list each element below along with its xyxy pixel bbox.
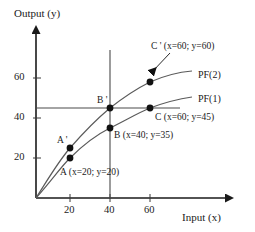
x-tick-label-60: 60	[144, 205, 155, 216]
y-tick-label-20: 20	[14, 152, 25, 163]
data-point-c	[147, 105, 154, 112]
annotation-arrow-c-prime	[152, 53, 170, 72]
data-point-b	[107, 125, 114, 132]
y-axis-title: Output (y)	[14, 8, 60, 19]
y-tick-label-60: 60	[14, 72, 25, 83]
data-point-b-prime	[107, 105, 114, 112]
chart-canvas	[0, 0, 255, 232]
curve-label-pf2: PF(2)	[198, 70, 221, 80]
data-point-a	[67, 155, 74, 162]
y-tick-label-40: 40	[14, 112, 25, 123]
curve-label-pf1: PF(1)	[198, 94, 221, 104]
x-axis-title: Input (x)	[182, 212, 221, 223]
x-tick-label-40: 40	[104, 205, 115, 216]
point-label-a: A (x=20; y=20)	[60, 168, 119, 178]
point-label-b: B (x=40; y=35)	[114, 131, 173, 141]
point-label-c: C (x=60; y=45)	[155, 113, 214, 123]
production-function-chart: Output (y) Input (x) 60 40 20 20 40 60 P…	[0, 0, 255, 232]
data-point-a-prime	[67, 145, 74, 152]
point-label-a-prime: A '	[57, 136, 67, 146]
point-label-b-prime: B '	[97, 96, 107, 106]
data-point-c-prime	[147, 79, 154, 86]
point-label-c-prime: C ' (x=60; y=60)	[151, 42, 214, 52]
x-tick-label-20: 20	[64, 205, 75, 216]
